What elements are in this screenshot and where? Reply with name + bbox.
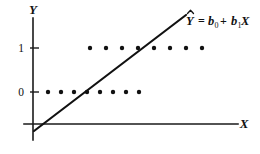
- data-point: [104, 46, 108, 50]
- data-points-y0: [46, 90, 141, 94]
- data-point: [152, 46, 156, 50]
- equation-plus-sign: +: [220, 14, 227, 28]
- data-point: [120, 46, 124, 50]
- plot-canvas: 1 0 Y X: [0, 0, 260, 154]
- equation-equals-sign: =: [198, 14, 205, 28]
- x-axis-label: X: [239, 116, 249, 131]
- regression-equation-annotation: Y = b 0 + b 1 X: [186, 10, 250, 30]
- data-point: [184, 46, 188, 50]
- equation-intercept-subscript: 0: [215, 21, 219, 30]
- data-point: [85, 90, 89, 94]
- data-point: [124, 90, 128, 94]
- data-point: [98, 90, 102, 94]
- y-tick-label-one: 1: [18, 42, 24, 54]
- regression-scatter-figure: 1 0 Y X: [0, 0, 260, 154]
- y-axis-ticks: [30, 48, 39, 92]
- axes-group: [24, 18, 238, 140]
- data-point: [59, 90, 63, 94]
- data-point: [137, 90, 141, 94]
- data-point: [200, 46, 204, 50]
- equation-x-variable: X: [240, 14, 250, 28]
- data-point: [168, 46, 172, 50]
- data-point: [46, 90, 50, 94]
- equation-slope-symbol: b: [231, 14, 237, 28]
- data-point: [72, 90, 76, 94]
- equation-y-variable: Y: [186, 14, 195, 28]
- equation-intercept-symbol: b: [208, 14, 214, 28]
- y-tick-label-zero: 0: [18, 86, 24, 98]
- fitted-regression-line: [34, 15, 186, 131]
- data-point: [136, 46, 140, 50]
- data-point: [88, 46, 92, 50]
- data-point: [111, 90, 115, 94]
- y-axis-label: Y: [29, 2, 38, 17]
